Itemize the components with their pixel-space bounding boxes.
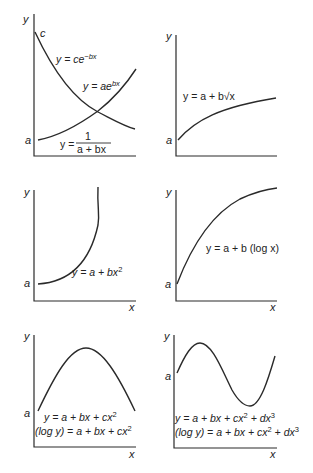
equation-cubic-log: (log y) = a + bx + cx2 + dx3	[175, 425, 299, 438]
equation-reciprocal-lhs: y =	[60, 138, 74, 150]
equation-growing: y = aebx	[82, 79, 120, 92]
equation-parabola-log: (log y) = a + bx + cx2	[35, 424, 132, 437]
equation-logarithmic: y = a + b (log x)	[206, 242, 279, 254]
curve-logarithmic	[177, 188, 277, 284]
intercept-label-a: a	[165, 370, 171, 382]
intercept-label-a: a	[24, 407, 30, 419]
panel-logarithmic: y a x y = a + b (log x)	[165, 186, 279, 313]
equation-quadratic: y = a + bx2	[71, 265, 122, 278]
curve-square-root	[178, 98, 276, 140]
y-axis-label: y	[165, 30, 173, 42]
intercept-label-c: c	[40, 27, 46, 39]
y-axis-label: y	[22, 13, 30, 25]
equation-square-root: y = a + b√x	[183, 90, 236, 102]
intercept-label-a: a	[25, 134, 31, 146]
panel-third-order-polynomial: y a x y = a + bx + cx2 + dx3 (log y) = a…	[163, 330, 299, 460]
panel-quadratic-power: y a x y = a + bx2	[23, 186, 136, 313]
intercept-label-a: a	[166, 134, 172, 146]
intercept-label-a: a	[24, 277, 30, 289]
panel-second-order-polynomial: y a x y = a + bx + cx2 (log y) = a + bx …	[23, 330, 136, 460]
x-axis-label: x	[128, 301, 135, 313]
curve-parabola	[38, 348, 135, 411]
y-axis-label: y	[23, 330, 31, 342]
x-axis-label: x	[269, 301, 276, 313]
x-axis-label: x	[128, 448, 135, 460]
panel-exponential-reciprocal: y c a y = ce−bx y = aebx y = 1 a + bx	[22, 13, 136, 156]
y-axis-label: y	[163, 330, 171, 342]
axes	[34, 190, 136, 301]
equation-parabola-linear: y = a + bx + cx2	[43, 410, 117, 423]
curve-families-figure: y c a y = ce−bx y = aebx y = 1 a + bx y …	[0, 0, 313, 473]
equation-reciprocal-numerator: 1	[85, 130, 91, 142]
intercept-label-a: a	[165, 278, 171, 290]
panel-square-root: y a y = a + b√x	[165, 30, 277, 156]
y-axis-label: y	[165, 186, 173, 198]
curve-cubic	[177, 343, 275, 406]
x-axis-label: x	[269, 448, 276, 460]
equation-decaying: y = ce−bx	[55, 52, 97, 65]
equation-reciprocal-denominator: a + bx	[77, 143, 107, 155]
y-axis-label: y	[23, 186, 31, 198]
equation-cubic-linear: y = a + bx + cx2 + dx3	[174, 411, 275, 424]
